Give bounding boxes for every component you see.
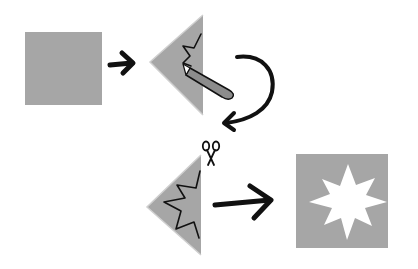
step-3-cut bbox=[147, 142, 219, 256]
square-paper bbox=[25, 32, 102, 105]
arrow-step1-to-step2 bbox=[110, 53, 133, 73]
folded-triangle-cut bbox=[147, 155, 201, 255]
step-1-square-paper bbox=[25, 32, 102, 105]
diagram-canvas bbox=[0, 0, 418, 269]
arrow-shaft bbox=[215, 200, 270, 205]
scissors-icon bbox=[203, 142, 219, 166]
arrow-step3-to-step4 bbox=[215, 186, 271, 218]
folded-triangle bbox=[150, 15, 203, 115]
step-2-fold-and-draw bbox=[150, 15, 233, 115]
step-4-star-result bbox=[296, 154, 388, 248]
